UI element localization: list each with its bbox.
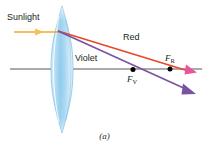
figure-caption: (a)	[0, 131, 209, 141]
sunlight-arrowhead-icon	[35, 28, 44, 35]
focal-red-symbol: F	[165, 53, 171, 63]
optics-dispersion-figure: Sunlight Red Violet FR FV (a)	[0, 0, 209, 150]
violet-ray-arrowhead-icon	[182, 84, 197, 95]
converging-lens	[51, 6, 73, 133]
focal-point-red	[168, 67, 173, 72]
focal-point-violet	[131, 67, 136, 72]
focal-violet-symbol: F	[127, 74, 133, 84]
focal-violet-subscript: V	[133, 78, 138, 85]
violet-ray-label: Violet	[75, 54, 97, 63]
focal-red-label: FR	[165, 54, 175, 63]
focal-red-subscript: R	[171, 57, 175, 64]
sunlight-label: Sunlight	[7, 13, 40, 22]
lens-highlight	[51, 6, 73, 133]
sunlight-ray	[14, 28, 60, 35]
red-ray-label: Red	[123, 33, 140, 42]
focal-violet-label: FV	[127, 75, 137, 84]
figure-canvas	[0, 0, 209, 150]
